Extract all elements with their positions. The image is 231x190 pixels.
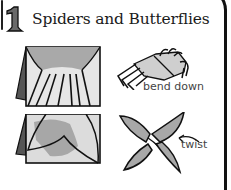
step-title: Spiders and Butterflies xyxy=(32,10,210,28)
folded-paper-petal-illustration xyxy=(14,114,104,166)
instruction-card: Spiders and Butterflies xyxy=(0,0,231,190)
step-header: Spiders and Butterflies xyxy=(4,4,210,34)
step-number-badge xyxy=(4,5,24,33)
twist-label: twist xyxy=(181,138,207,151)
bend-down-label: bend down xyxy=(143,80,204,93)
folded-paper-fringe-illustration xyxy=(14,44,104,110)
step-number-one-icon xyxy=(4,5,24,33)
card-border-left xyxy=(1,0,3,30)
